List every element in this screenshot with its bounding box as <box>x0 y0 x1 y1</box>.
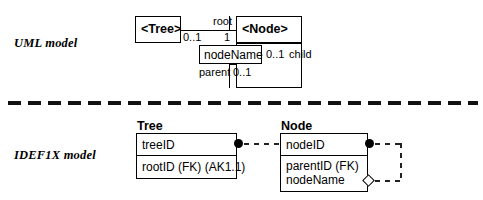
idef1x-entity-tree: treeID rootID (FK) (AK1.1) <box>136 133 237 179</box>
uml-attribute-nodename: nodeName <box>204 48 263 62</box>
uml-role-parent: parent <box>199 66 230 78</box>
uml-model-label: UML model <box>14 36 77 51</box>
uml-attribute-nodename-box: nodeName <box>199 45 262 64</box>
idef1x-entity-node-title: Node <box>281 119 312 133</box>
idef1x-node-key-separator <box>281 155 367 156</box>
idef1x-node-nonkey-attribute-2: nodeName <box>286 173 345 187</box>
idef1x-rel-tree-node-parent-dot <box>234 139 243 148</box>
uml-class-node-name: <Node> <box>242 22 288 36</box>
uml-multiplicity-parent: 0..1 <box>233 66 251 78</box>
idef1x-tree-key-separator <box>137 155 236 156</box>
idef1x-rel-node-self-right-line <box>400 143 402 181</box>
idef1x-entity-tree-title: Tree <box>137 119 163 133</box>
uml-class-tree: <Tree> <box>135 16 181 43</box>
idef1x-rel-tree-node-line <box>244 143 280 145</box>
uml-assoc-parent-tick <box>229 64 230 88</box>
uml-class-node: <Node> <box>236 16 302 43</box>
uml-role-child: child <box>289 48 312 60</box>
idef1x-rel-node-self-bottom-line <box>375 180 401 182</box>
idef1x-rel-node-self-top-line <box>375 143 401 145</box>
idef1x-rel-node-self-parent-dot <box>365 139 374 148</box>
uml-multiplicity-child: 0..1 <box>266 48 284 60</box>
uml-class-tree-name: <Tree> <box>141 22 181 36</box>
idef1x-node-nonkey-attribute-1: parentID (FK) <box>286 159 359 173</box>
diagram-canvas: UML model <Tree> <Node> nodeName root 0.… <box>0 0 483 200</box>
uml-role-root: root <box>213 15 232 27</box>
idef1x-node-key-attribute: nodeID <box>286 138 325 152</box>
idef1x-tree-nonkey-attribute: rootID (FK) (AK1.1) <box>142 160 245 174</box>
uml-multiplicity-tree-side: 0..1 <box>183 31 201 43</box>
idef1x-model-label: IDEF1X model <box>14 148 96 163</box>
idef1x-entity-node: nodeID parentID (FK) nodeName <box>280 133 368 192</box>
section-divider <box>8 101 478 105</box>
uml-assoc-parent-line <box>229 64 237 65</box>
idef1x-tree-key-attribute: treeID <box>142 138 175 152</box>
uml-multiplicity-node-side: 1 <box>224 31 230 43</box>
